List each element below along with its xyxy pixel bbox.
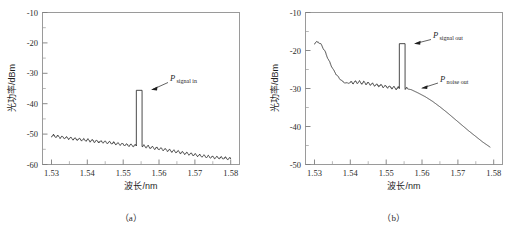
plot-b-x-axis: 1.53 1.54 1.55 1.56 1.57 1.58 — [307, 160, 501, 178]
plot-b-anno1-sub: noise out — [447, 79, 469, 85]
panel-b-caption: （b） — [263, 211, 525, 224]
plot-b-ytick-4: -50 — [290, 160, 301, 170]
plot-b-anno0-main: P — [432, 30, 438, 40]
plot-b-annotation-noise-out: P noise out — [421, 74, 469, 90]
plot-a-frame — [43, 13, 240, 165]
plot-a-ytick-5: -60 — [27, 160, 38, 170]
plot-a-anno-sub: signal in — [177, 78, 198, 84]
plot-b-frame — [306, 13, 503, 165]
plot-a-xtick-4: 1.57 — [187, 168, 202, 178]
plot-b-xtick-2: 1.55 — [379, 168, 394, 178]
panel-b: -10 -20 -30 -40 -50 1.53 1.54 — [263, 0, 525, 228]
plot-b-xtick-5: 1.58 — [486, 168, 501, 178]
plot-a-anno-main: P — [169, 73, 175, 83]
plot-b-trace — [314, 42, 490, 148]
plot-a-xtick-0: 1.53 — [44, 168, 59, 178]
plot-a-xtick-5: 1.58 — [223, 168, 238, 178]
plot-b-xtick-3: 1.56 — [415, 168, 430, 178]
plot-a-xtick-2: 1.55 — [116, 168, 131, 178]
plot-b-anno0-sub: signal out — [440, 35, 464, 41]
plot-b-xtick-0: 1.53 — [307, 168, 322, 178]
plot-b-xtick-1: 1.54 — [343, 168, 359, 178]
figure-container: -10 -20 -30 -40 -50 -60 1.53 — [0, 0, 525, 228]
plot-b-annotation-signal-out: P signal out — [414, 30, 463, 45]
plot-a-ytick-4: -50 — [27, 129, 38, 139]
plot-a-xtick-1: 1.54 — [80, 168, 96, 178]
plot-b-ytick-0: -10 — [290, 8, 301, 18]
plot-a-trace — [51, 90, 230, 159]
panel-a-caption: （a） — [0, 211, 262, 224]
plot-b-svg: -10 -20 -30 -40 -50 1.53 1.54 — [263, 0, 525, 200]
arrowhead-icon — [151, 87, 158, 91]
plot-b-anno1-main: P — [439, 74, 445, 84]
plot-a-ytick-2: -30 — [27, 68, 38, 78]
panel-a: -10 -20 -30 -40 -50 -60 1.53 — [0, 0, 262, 228]
arrowhead-icon — [414, 41, 421, 45]
plot-a-ylabel: 光功率/dBm — [6, 64, 17, 112]
plot-b-ytick-3: -40 — [290, 122, 301, 132]
plot-a-ytick-0: -10 — [27, 8, 38, 18]
plot-b-ytick-1: -20 — [290, 46, 301, 56]
plot-b-y-axis: -10 -20 -30 -40 -50 — [290, 8, 311, 170]
plot-a-ytick-3: -40 — [27, 99, 38, 109]
plot-a-svg: -10 -20 -30 -40 -50 -60 1.53 — [0, 0, 262, 200]
plot-b-ytick-2: -30 — [290, 84, 301, 94]
plot-a-xlabel: 波长/nm — [124, 180, 157, 191]
plot-a-ytick-1: -20 — [27, 38, 38, 48]
plot-a-xtick-3: 1.56 — [152, 168, 167, 178]
plot-b-xtick-4: 1.57 — [450, 168, 465, 178]
plot-a-x-axis: 1.53 1.54 1.55 1.56 1.57 1.58 — [44, 160, 238, 178]
plot-b-ylabel: 光功率/dBm — [269, 64, 280, 112]
plot-a-y-axis: -10 -20 -30 -40 -50 -60 — [27, 8, 48, 170]
plot-b-xlabel: 波长/nm — [387, 180, 420, 191]
arrowhead-icon — [421, 85, 428, 89]
plot-a-annotation-signal-in: P signal in — [151, 73, 197, 91]
